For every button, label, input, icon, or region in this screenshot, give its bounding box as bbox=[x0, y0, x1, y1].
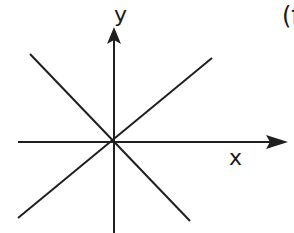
x-axis-label: x bbox=[229, 147, 242, 169]
y-axis-label: y bbox=[114, 4, 127, 26]
negative-diagonal-line bbox=[30, 54, 190, 221]
panel-tag: (f bbox=[282, 4, 294, 28]
coordinate-diagram bbox=[0, 0, 294, 233]
